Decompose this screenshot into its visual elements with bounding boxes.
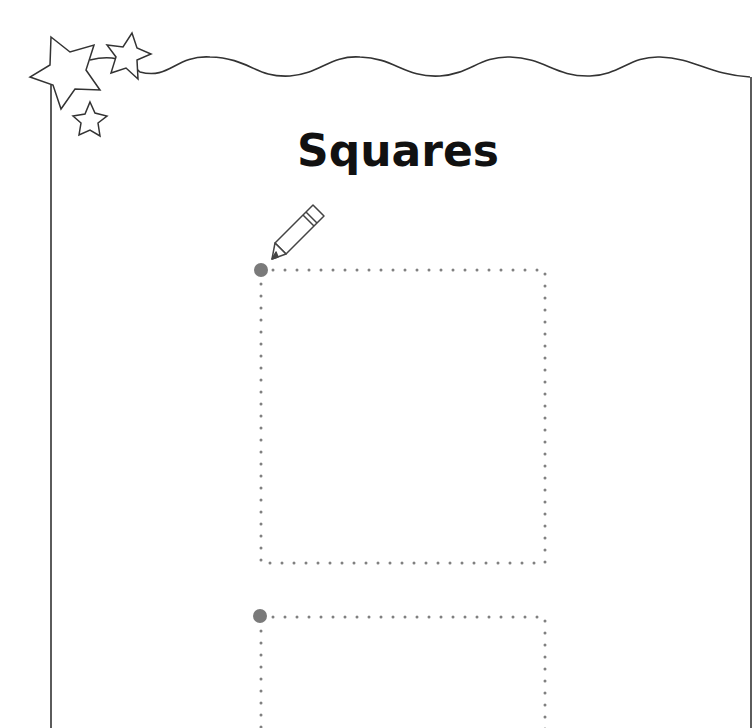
pencil-icon (272, 205, 324, 259)
start-dot (253, 609, 267, 623)
star-icon (30, 37, 100, 109)
worksheet-frame (0, 0, 756, 728)
tracing-square-2 (253, 609, 545, 728)
start-dot (254, 263, 268, 277)
tracing-square-1 (254, 263, 545, 563)
worksheet-title: Squares (0, 125, 756, 176)
wavy-top-border (90, 57, 750, 77)
star-icon (107, 33, 151, 79)
